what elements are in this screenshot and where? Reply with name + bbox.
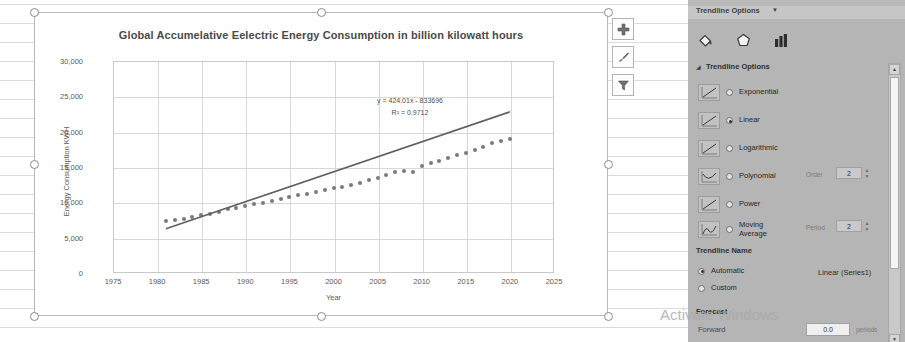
spinner-input[interactable]: 2 (836, 167, 862, 179)
trendline-options-icon[interactable] (772, 31, 791, 50)
forecast-forward-input[interactable]: 0.0 (806, 323, 850, 336)
activate-windows-watermark: Activate Windows (660, 306, 778, 323)
selection-handle-middle-left[interactable] (30, 160, 39, 169)
scroll-up-icon[interactable]: ▲ (889, 64, 900, 75)
trendline-option-power[interactable]: Power (698, 196, 760, 213)
fill-line-icon[interactable] (696, 31, 715, 50)
trendline-preview-icon (698, 84, 720, 101)
excel-chart-screen: Global Accumelative Eelectric Energy Con… (0, 0, 905, 342)
radio-automatic-label: Automatic (711, 267, 744, 276)
trendline-option-moving-average[interactable]: Moving Average (698, 221, 783, 238)
selection-handle-top-left[interactable] (30, 8, 39, 17)
trendline-option-label: Power (739, 200, 760, 209)
radio-custom-label: Custom (711, 284, 737, 293)
section-title-trendline-name: Trendline Name (696, 246, 752, 255)
trendline-option-logarithmic[interactable]: Logarithmic (698, 140, 778, 157)
selection-handle-bottom-left[interactable] (30, 312, 39, 321)
spinner-stepper-icon[interactable]: ▲▼ (863, 167, 871, 179)
x-tick-label: 1975 (93, 277, 133, 286)
trendline-preview-icon (698, 112, 720, 129)
section-expand-icon[interactable]: ◢ (696, 63, 701, 70)
trendline-preview-icon (698, 221, 720, 238)
spinner-label: Order (806, 171, 823, 178)
chart-styles-button[interactable] (612, 46, 634, 68)
chart-elements-button[interactable] (612, 18, 634, 40)
radio-automatic-row[interactable]: Automatic (698, 267, 744, 276)
y-tick-label: 5,000 (37, 233, 83, 242)
x-tick-label: 2025 (534, 277, 574, 286)
spinner-input[interactable]: 2 (836, 220, 862, 232)
forecast-forward-label: Forward (698, 326, 726, 335)
trendline-option-label: Exponential (739, 88, 778, 97)
chart-object[interactable]: Global Accumelative Eelectric Energy Con… (34, 12, 608, 316)
y-axis-title: Energy Consumption KWH (62, 97, 71, 247)
spreadsheet-row-line (0, 327, 690, 328)
pane-scrollbar[interactable]: ▲ ▼ (888, 63, 901, 342)
trendline-option-linear[interactable]: Linear (698, 112, 760, 129)
radio-icon[interactable] (726, 89, 733, 96)
radio-icon[interactable] (726, 226, 733, 233)
x-tick-label: 1980 (137, 277, 177, 286)
scroll-down-icon[interactable]: ▼ (889, 334, 900, 342)
x-tick-label: 2005 (358, 277, 398, 286)
section-title-trendline-options: Trendline Options (706, 62, 770, 71)
selection-handle-middle-right[interactable] (604, 160, 613, 169)
trendline-option-label: Logarithmic (739, 144, 778, 153)
y-tick-label: 20,000 (37, 127, 83, 136)
x-tick-label: 2000 (314, 277, 354, 286)
trendline-option-polynomial[interactable]: Polynomial (698, 168, 776, 185)
pane-header-title: Trendline Options (696, 6, 760, 15)
trendline-option-exponential[interactable]: Exponential (698, 84, 778, 101)
forecast-period-unit-label: periods (856, 326, 877, 333)
selection-handle-top-center[interactable] (317, 8, 326, 17)
selection-handle-top-right[interactable] (604, 8, 613, 17)
radio-automatic-icon[interactable] (698, 268, 705, 275)
x-tick-label: 2010 (402, 277, 442, 286)
radio-icon[interactable] (726, 201, 733, 208)
trendline-preview-icon (698, 168, 720, 185)
pane-body: ◢ Trendline Options ExponentialLinearLog… (688, 19, 905, 342)
trendline-name-automatic-value: Linear (Series1) (818, 268, 871, 277)
x-axis-title: Year (113, 293, 554, 302)
funnel-icon (617, 79, 630, 92)
spinner-stepper-icon[interactable]: ▲▼ (863, 220, 871, 232)
x-tick-label: 2015 (446, 277, 486, 286)
radio-icon[interactable] (726, 145, 733, 152)
y-tick-label: 0 (37, 269, 83, 278)
plot-wrapper: 05,00010,00015,00020,00025,00030,000 197… (35, 13, 607, 315)
y-tick-label: 25,000 (37, 92, 83, 101)
pane-icon-row (696, 31, 791, 50)
format-trendline-pane: Trendline Options ▼ (688, 0, 905, 342)
y-tick-label: 30,000 (37, 57, 83, 66)
trendline-option-label: Linear (739, 116, 760, 125)
trendline[interactable] (113, 61, 554, 273)
chart-filters-button[interactable] (612, 74, 634, 96)
trendline-option-label: Moving Average (739, 221, 783, 238)
chart-floating-buttons (612, 18, 634, 102)
x-tick-label: 1995 (269, 277, 309, 286)
radio-custom-row[interactable]: Custom (698, 284, 737, 293)
x-tick-label: 1985 (181, 277, 221, 286)
x-tick-label: 1990 (225, 277, 265, 286)
radio-icon[interactable] (726, 117, 733, 124)
trendline-preview-icon (698, 196, 720, 213)
x-tick-label: 2020 (490, 277, 530, 286)
effects-icon[interactable] (734, 31, 753, 50)
spreadsheet-row-line (0, 4, 690, 5)
plus-icon (617, 23, 630, 36)
scrollbar-thumb[interactable] (890, 77, 899, 269)
spinner-label: Period (806, 224, 825, 231)
selection-handle-bottom-right[interactable] (604, 312, 613, 321)
chevron-down-icon[interactable]: ▼ (772, 7, 778, 13)
selection-handle-bottom-center[interactable] (317, 312, 326, 321)
trendline-option-label: Polynomial (739, 172, 776, 181)
trendline-preview-icon (698, 140, 720, 157)
radio-custom-icon[interactable] (698, 285, 705, 292)
paintbrush-icon (617, 51, 630, 64)
radio-icon[interactable] (726, 173, 733, 180)
y-tick-label: 15,000 (37, 163, 83, 172)
y-tick-label: 10,000 (37, 198, 83, 207)
